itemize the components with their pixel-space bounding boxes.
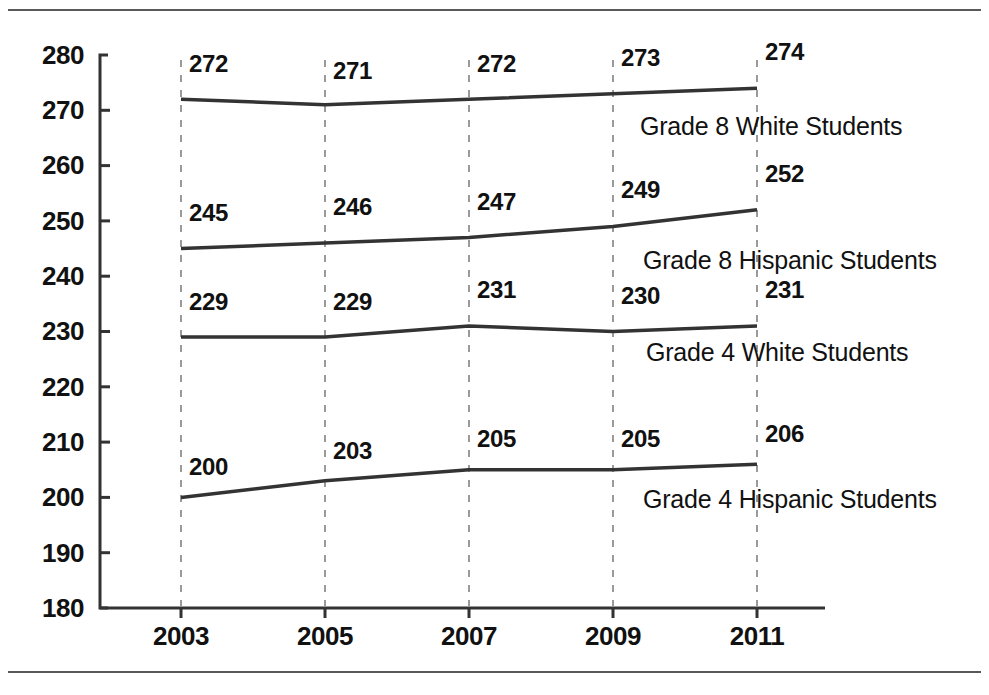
- value-label: 229: [189, 288, 228, 316]
- y-tick-label: 180: [22, 593, 84, 624]
- vertical-gridlines: [181, 60, 757, 608]
- value-label: 272: [477, 50, 516, 78]
- value-label: 203: [333, 437, 372, 465]
- y-tick-label: 210: [22, 427, 84, 458]
- series-label-grade4-white: Grade 4 White Students: [646, 338, 908, 367]
- y-tick-label: 200: [22, 482, 84, 513]
- value-label: 229: [333, 288, 372, 316]
- value-label: 272: [189, 50, 228, 78]
- value-label: 249: [621, 176, 660, 204]
- series-label-grade4-hispanic: Grade 4 Hispanic Students: [643, 485, 937, 514]
- y-tick-label: 240: [22, 261, 84, 292]
- value-label: 252: [765, 160, 804, 188]
- x-tick-label: 2011: [717, 621, 797, 652]
- y-tick-label: 220: [22, 372, 84, 403]
- y-tick-label: 280: [22, 40, 84, 71]
- chart-figure: 280 270 260 250 240 230 220 210 200 190 …: [0, 0, 989, 695]
- y-tick-label: 250: [22, 206, 84, 237]
- value-label: 231: [765, 276, 804, 304]
- y-tick-label: 230: [22, 316, 84, 347]
- y-tick-label: 260: [22, 150, 84, 181]
- value-label: 246: [333, 193, 372, 221]
- value-label: 231: [477, 276, 516, 304]
- value-label: 245: [189, 199, 228, 227]
- value-label: 273: [621, 44, 660, 72]
- x-tick-label: 2009: [573, 621, 653, 652]
- value-label: 274: [765, 38, 804, 66]
- y-tick-label: 270: [22, 95, 84, 126]
- value-label: 205: [477, 425, 516, 453]
- value-label: 247: [477, 188, 516, 216]
- series-label-grade8-hispanic: Grade 8 Hispanic Students: [643, 246, 937, 275]
- value-label: 205: [621, 425, 660, 453]
- x-tick-label: 2005: [285, 621, 365, 652]
- x-tick-label: 2003: [141, 621, 221, 652]
- series-label-grade8-white: Grade 8 White Students: [640, 112, 902, 141]
- value-label: 206: [765, 420, 804, 448]
- x-tick-label: 2007: [429, 621, 509, 652]
- value-label: 200: [189, 453, 228, 481]
- value-label: 230: [621, 282, 660, 310]
- y-tick-label: 190: [22, 538, 84, 569]
- value-label: 271: [333, 57, 372, 85]
